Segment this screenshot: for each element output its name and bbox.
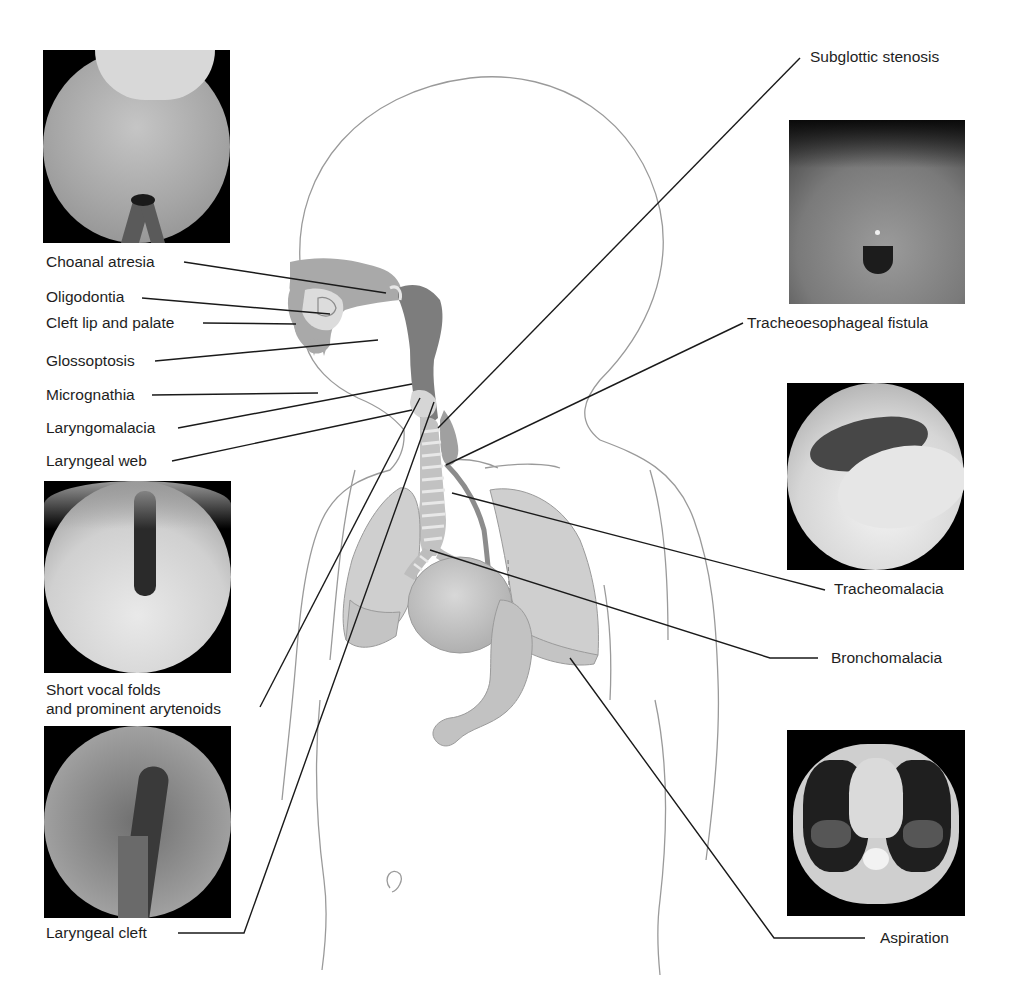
label-aspiration: Aspiration bbox=[880, 929, 949, 947]
label-oligodontia: Oligodontia bbox=[46, 288, 124, 306]
label-subglottic-stenosis: Subglottic stenosis bbox=[810, 48, 939, 66]
label-short-vocal-folds-line2: and prominent arytenoids bbox=[46, 700, 221, 718]
label-micrognathia: Micrognathia bbox=[46, 386, 135, 404]
label-cleft-lip-palate: Cleft lip and palate bbox=[46, 314, 174, 332]
label-tracheomalacia: Tracheomalacia bbox=[834, 580, 944, 598]
label-choanal-atresia: Choanal atresia bbox=[46, 253, 155, 271]
label-glossoptosis: Glossoptosis bbox=[46, 352, 135, 370]
label-tracheoesophageal-fistula: Tracheoesophageal fistula bbox=[747, 314, 928, 332]
label-laryngeal-web: Laryngeal web bbox=[46, 452, 147, 470]
label-bronchomalacia: Bronchomalacia bbox=[831, 649, 942, 667]
label-laryngomalacia: Laryngomalacia bbox=[46, 419, 155, 437]
choanal-atresia-photo bbox=[43, 50, 230, 243]
laryngeal-cleft-photo bbox=[44, 726, 231, 918]
tracheomalacia-photo bbox=[787, 383, 964, 570]
laryngeal-web-photo bbox=[44, 481, 231, 673]
label-short-vocal-folds-line1: Short vocal folds bbox=[46, 681, 161, 699]
label-laryngeal-cleft: Laryngeal cleft bbox=[46, 924, 147, 942]
tracheoesophageal-fistula-photo bbox=[789, 120, 965, 304]
aspiration-ct-photo bbox=[787, 730, 965, 916]
airway-anomalies-figure: Choanal atresia Oligodontia Cleft lip an… bbox=[0, 0, 1011, 981]
